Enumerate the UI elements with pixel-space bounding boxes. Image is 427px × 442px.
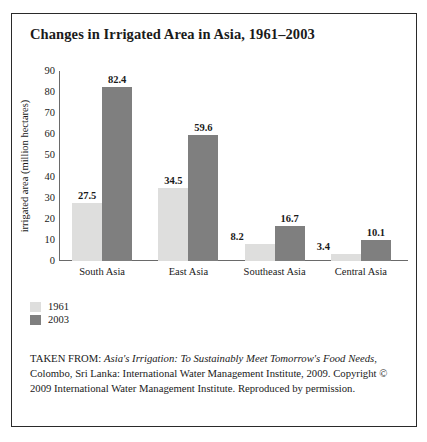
y-axis-tick: 60 [45,129,56,140]
bar-1961-east-asia[interactable] [158,188,188,261]
legend-swatch-icon [30,302,41,312]
bar-value-label: 8.2 [231,231,244,242]
source-prefix: TAKEN FROM: [30,352,104,364]
x-axis-tick-label: East Asia [169,266,208,277]
y-axis-tick: 50 [45,150,56,161]
legend-swatch-icon [30,315,41,325]
x-axis-tick-label: Central Asia [335,266,387,277]
y-axis-tick: 0 [50,256,55,267]
page-title: Changes in Irrigated Area in Asia, 1961–… [30,26,315,43]
y-axis-tick: 70 [45,108,56,119]
bar-1961-central-asia[interactable] [331,254,361,261]
bar-2003-southeast-asia[interactable] [275,226,305,261]
bar-slot: 82.4 [102,71,132,261]
chart-legend: 19612003 [30,301,69,327]
bar-value-label: 10.1 [367,227,385,238]
source-citation: TAKEN FROM: Asia's Irrigation: To Sustai… [30,351,398,397]
bar-1961-south-asia[interactable] [72,203,102,261]
bar-1961-southeast-asia[interactable] [245,244,275,261]
legend-item: 1961 [30,301,69,312]
legend-item: 2003 [30,314,69,325]
bar-group: 3.410.1Central Asia [331,71,391,261]
y-axis-tick: 30 [45,192,56,203]
bar-groups: 27.582.4South Asia34.559.6East Asia8.216… [59,71,404,261]
x-axis-tick-label: Southeast Asia [244,266,306,277]
bar-slot: 3.4 [331,71,361,261]
bar-value-label: 34.5 [164,175,182,186]
bar-slot: 8.2 [245,71,275,261]
bar-value-label: 16.7 [280,213,298,224]
legend-label: 2003 [48,314,69,325]
y-axis-label: irrigated area (million hectares) [19,71,35,261]
bar-value-label: 3.4 [317,241,330,252]
bar-slot: 34.5 [158,71,188,261]
y-axis-tick: 80 [45,87,56,98]
chart-plot-area: irrigated area (million hectares) 908070… [59,71,404,261]
bar-slot: 10.1 [361,71,391,261]
bar-group: 27.582.4South Asia [72,71,132,261]
y-axis-tick: 20 [45,214,56,225]
x-axis-tick-label: South Asia [79,266,125,277]
bar-value-label: 59.6 [194,122,212,133]
bar-slot: 59.6 [188,71,218,261]
bar-value-label: 82.4 [108,74,126,85]
bar-group: 8.216.7Southeast Asia [245,71,305,261]
bar-2003-east-asia[interactable] [188,135,218,261]
figure-frame: Changes in Irrigated Area in Asia, 1961–… [11,13,417,427]
bar-2003-south-asia[interactable] [102,87,132,261]
y-axis-tick: 40 [45,171,56,182]
source-work-title: Asia's Irrigation: To Sustainably Meet T… [104,352,374,364]
y-axis-tick: 10 [45,235,56,246]
bar-value-label: 27.5 [78,190,96,201]
legend-label: 1961 [48,301,69,312]
y-axis-tick: 90 [45,66,56,77]
bar-2003-central-asia[interactable] [361,240,391,261]
bar-slot: 16.7 [275,71,305,261]
bar-slot: 27.5 [72,71,102,261]
bar-group: 34.559.6East Asia [158,71,218,261]
